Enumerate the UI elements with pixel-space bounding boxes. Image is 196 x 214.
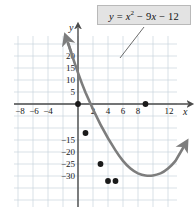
data-point bbox=[75, 101, 81, 107]
equation-text: y = x2 − 9x − 12 bbox=[109, 9, 179, 22]
y-tick-label: −20 bbox=[61, 147, 76, 157]
y-tick-label: −25 bbox=[61, 159, 76, 169]
data-point bbox=[143, 101, 149, 107]
y-tick-label: 10 bbox=[66, 75, 76, 85]
data-point bbox=[98, 161, 104, 167]
equation-callout-box: y = x2 − 9x − 12 bbox=[97, 5, 191, 25]
data-point bbox=[105, 178, 111, 184]
x-tick-label: 12 bbox=[165, 106, 174, 116]
x-tick-label: 8 bbox=[136, 106, 141, 116]
coordinate-plane: x y −8 −6 −4 2 4 6 8 12 20 15 10 5 −15 −… bbox=[0, 0, 196, 214]
x-tick-label: −4 bbox=[43, 106, 53, 116]
graph-figure: x y −8 −6 −4 2 4 6 8 12 20 15 10 5 −15 −… bbox=[0, 0, 196, 214]
y-tick-label: −15 bbox=[61, 135, 76, 145]
x-tick-label: −8 bbox=[15, 106, 25, 116]
x-axis-label: x bbox=[182, 106, 188, 117]
x-tick-label: −6 bbox=[29, 106, 39, 116]
data-point bbox=[113, 178, 119, 184]
data-point bbox=[83, 130, 89, 136]
y-tick-label: −30 bbox=[61, 171, 76, 181]
y-axis-label: y bbox=[68, 22, 74, 33]
y-tick-label: 5 bbox=[71, 87, 76, 97]
x-tick-label: 6 bbox=[121, 106, 126, 116]
x-tick-label: 4 bbox=[106, 106, 111, 116]
plot-background bbox=[14, 36, 177, 207]
